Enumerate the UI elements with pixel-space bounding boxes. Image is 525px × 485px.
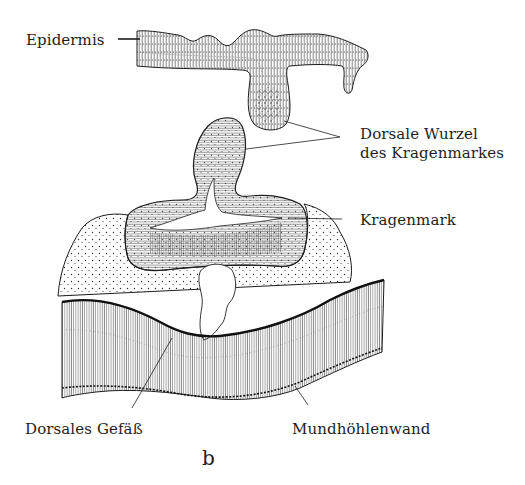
leader-dorsal-root-a: [284, 121, 340, 137]
label-dorsal-root-line2: des Kragenmarkes: [360, 144, 504, 163]
label-dorsal-vessel: Dorsales Gefäß: [25, 420, 143, 438]
histology-illustration: [0, 0, 525, 485]
label-mouth-cavity-wall: Mundhöhlenwand: [292, 420, 430, 438]
epidermis-tissue: [137, 30, 368, 130]
dorsal-vessel: [199, 264, 236, 340]
label-dorsal-root: Dorsale Wurzel des Kragenmarkes: [360, 125, 504, 163]
label-collar-cord: Kragenmark: [360, 211, 456, 229]
leader-dorsal-root-b: [246, 137, 340, 149]
panel-letter: b: [202, 449, 215, 467]
label-epidermis: Epidermis: [26, 31, 105, 49]
leader-mouth-wall: [295, 386, 308, 405]
collar-cord: [125, 118, 307, 271]
label-dorsal-root-line1: Dorsale Wurzel: [360, 125, 504, 144]
